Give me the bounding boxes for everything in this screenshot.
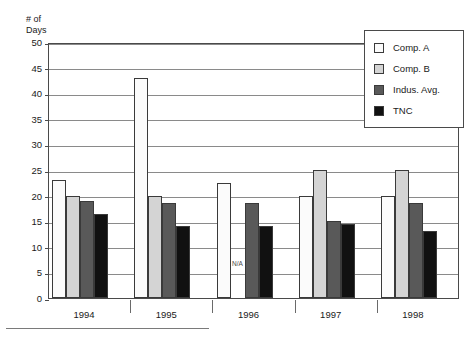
bar-tnc-1996 — [259, 226, 273, 298]
x-axis-group-tick — [212, 300, 213, 313]
legend-item-tnc[interactable]: TNC — [365, 100, 463, 121]
legend-label: Comp. A — [393, 43, 429, 53]
x-axis-group-tick — [377, 300, 378, 313]
bar-comp-b-1995 — [148, 196, 162, 298]
na-annotation: N/A — [232, 260, 243, 267]
legend-swatch-icon — [374, 106, 384, 116]
y-axis-tick-label: 40 — [12, 89, 42, 99]
y-axis-tick-mark — [45, 248, 49, 249]
legend-item-indus-avg[interactable]: Indus. Avg. — [365, 79, 463, 100]
y-axis-tick-label: 5 — [12, 268, 42, 278]
y-axis-tick-label: 20 — [12, 192, 42, 202]
bar-indus-avg-1996 — [245, 203, 259, 298]
y-axis-tick-mark — [45, 223, 49, 224]
legend-label: Comp. B — [393, 64, 430, 74]
y-axis-tick-mark — [45, 69, 49, 70]
y-axis-title: # of Days — [26, 14, 47, 35]
chart-legend: Comp. AComp. BIndus. Avg.TNC — [364, 30, 464, 128]
bar-indus-avg-1997 — [327, 221, 341, 298]
y-axis-tick-label: 25 — [12, 166, 42, 176]
y-axis-tick-mark — [45, 274, 49, 275]
x-axis-label-1997: 1997 — [320, 310, 341, 320]
y-axis-tick-label: 0 — [12, 294, 42, 304]
y-axis-tick-label: 30 — [12, 140, 42, 150]
bar-comp-b-1998 — [395, 170, 409, 298]
x-axis-label-1995: 1995 — [156, 310, 177, 320]
x-axis-label-1994: 1994 — [74, 310, 95, 320]
bar-indus-avg-1995 — [162, 203, 176, 298]
y-axis-tick-mark — [45, 95, 49, 96]
legend-item-comp-a[interactable]: Comp. A — [365, 37, 463, 58]
bar-tnc-1995 — [176, 226, 190, 298]
bar-indus-avg-1998 — [409, 203, 423, 298]
legend-label: TNC — [393, 106, 413, 116]
y-axis-tick-mark — [45, 44, 49, 45]
bar-comp-b-1997 — [313, 170, 327, 298]
y-axis-tick-label: 45 — [12, 64, 42, 74]
y-axis-tick-mark — [45, 197, 49, 198]
legend-label: Indus. Avg. — [393, 85, 440, 95]
y-axis-tick-label: 50 — [12, 38, 42, 48]
legend-swatch-icon — [374, 64, 384, 74]
y-axis-tick-label: 10 — [12, 243, 42, 253]
x-axis-label-1996: 1996 — [238, 310, 259, 320]
bar-comp-b-1994 — [66, 196, 80, 298]
y-axis-tick-mark — [45, 120, 49, 121]
bar-comp-a-1994 — [52, 180, 66, 298]
bar-comp-a-1995 — [134, 78, 148, 298]
legend-swatch-icon — [374, 85, 384, 95]
bar-comp-a-1998 — [381, 196, 395, 298]
legend-item-comp-b[interactable]: Comp. B — [365, 58, 463, 79]
footnote-separator — [6, 328, 209, 329]
y-axis-tick-label: 15 — [12, 217, 42, 227]
x-axis-group-tick — [130, 300, 131, 313]
x-axis-label-1998: 1998 — [402, 310, 423, 320]
y-axis-tick-label: 35 — [12, 115, 42, 125]
y-axis-tick-mark — [45, 172, 49, 173]
bar-tnc-1994 — [94, 214, 108, 298]
bar-indus-avg-1994 — [80, 201, 94, 298]
x-axis-group-tick — [295, 300, 296, 313]
legend-swatch-icon — [374, 43, 384, 53]
y-axis-tick-mark — [45, 300, 49, 301]
y-axis-tick-mark — [45, 146, 49, 147]
bar-comp-a-1996 — [217, 183, 231, 298]
bar-tnc-1998 — [423, 231, 437, 298]
bar-tnc-1997 — [341, 224, 355, 298]
bar-comp-a-1997 — [299, 196, 313, 298]
gridline — [49, 146, 458, 147]
